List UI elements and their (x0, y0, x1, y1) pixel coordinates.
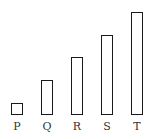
bar-t (131, 12, 143, 115)
bar-r (71, 57, 83, 115)
category-label-s: S (97, 120, 117, 133)
bar-p (11, 103, 23, 115)
bar-chart: P Q R S T (0, 0, 154, 139)
category-label-r: R (67, 120, 87, 133)
category-label-q: Q (37, 120, 57, 133)
bar-q (41, 80, 53, 115)
category-label-p: P (7, 120, 27, 133)
category-label-t: T (127, 120, 147, 133)
bar-s (101, 35, 113, 115)
